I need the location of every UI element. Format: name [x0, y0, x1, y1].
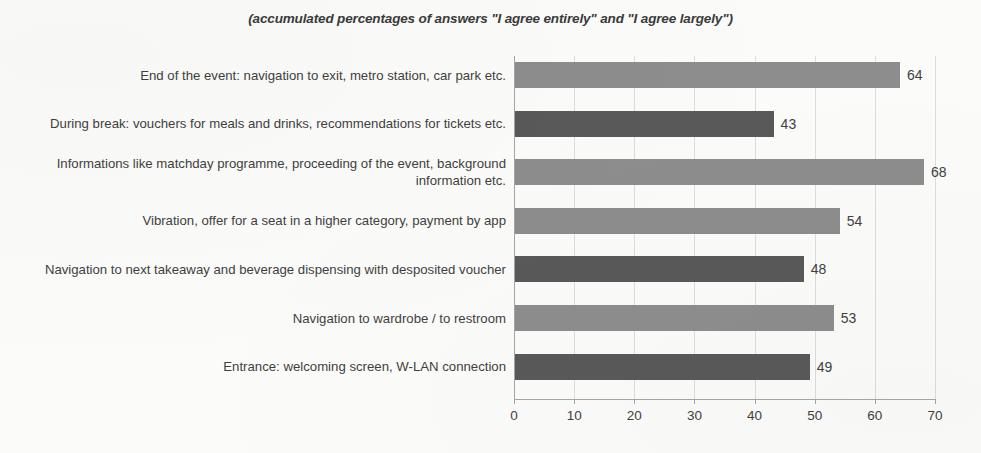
category-axis-labels: End of the event: navigation to exit, me… — [24, 56, 514, 399]
category-label: Navigation to next takeaway and beverage… — [44, 261, 514, 278]
category-label: Vibration, offer for a seat in a higher … — [44, 212, 514, 229]
bar-value-label: 49 — [810, 354, 833, 380]
x-tick-label: 60 — [855, 408, 895, 423]
x-tick-40 — [755, 399, 756, 404]
bar-value-label: 64 — [900, 62, 923, 88]
bar-chart-figure: (accumulated percentages of answers "I a… — [0, 0, 981, 453]
bar — [515, 256, 804, 282]
bar — [515, 62, 900, 88]
x-tick-label: 40 — [735, 408, 775, 423]
bar-value-label: 53 — [834, 305, 857, 331]
category-label: End of the event: navigation to exit, me… — [44, 67, 514, 84]
category-label: Informations like matchday programme, pr… — [44, 155, 514, 189]
x-tick-50 — [815, 399, 816, 404]
x-tick-20 — [634, 399, 635, 404]
x-tick-70 — [935, 399, 936, 404]
category-label: During break: vouchers for meals and dri… — [44, 115, 514, 132]
x-tick-label: 0 — [494, 408, 534, 423]
bar-value-label: 54 — [840, 208, 863, 234]
bar — [515, 208, 840, 234]
x-tick-0 — [514, 399, 515, 404]
x-tick-label: 70 — [915, 408, 955, 423]
bar-value-label: 48 — [804, 256, 827, 282]
x-tick-30 — [694, 399, 695, 404]
bar-value-label: 43 — [774, 111, 797, 137]
gridline-70 — [935, 56, 936, 399]
x-axis-line — [514, 399, 935, 400]
x-tick-label: 30 — [674, 408, 714, 423]
plot-area: 01020304050607064436854485349 — [514, 56, 935, 399]
chart-subtitle: (accumulated percentages of answers "I a… — [0, 11, 981, 26]
category-label: Navigation to wardrobe / to restroom — [44, 310, 514, 327]
x-tick-label: 50 — [795, 408, 835, 423]
bar-value-label: 68 — [924, 159, 947, 185]
x-tick-label: 20 — [614, 408, 654, 423]
x-tick-label: 10 — [554, 408, 594, 423]
category-label: Entrance: welcoming screen, W-LAN connec… — [44, 358, 514, 375]
bar — [515, 305, 834, 331]
x-tick-60 — [875, 399, 876, 404]
gridline-60 — [875, 56, 876, 399]
bar — [515, 111, 774, 137]
bar — [515, 159, 924, 185]
bar — [515, 354, 810, 380]
x-tick-10 — [574, 399, 575, 404]
